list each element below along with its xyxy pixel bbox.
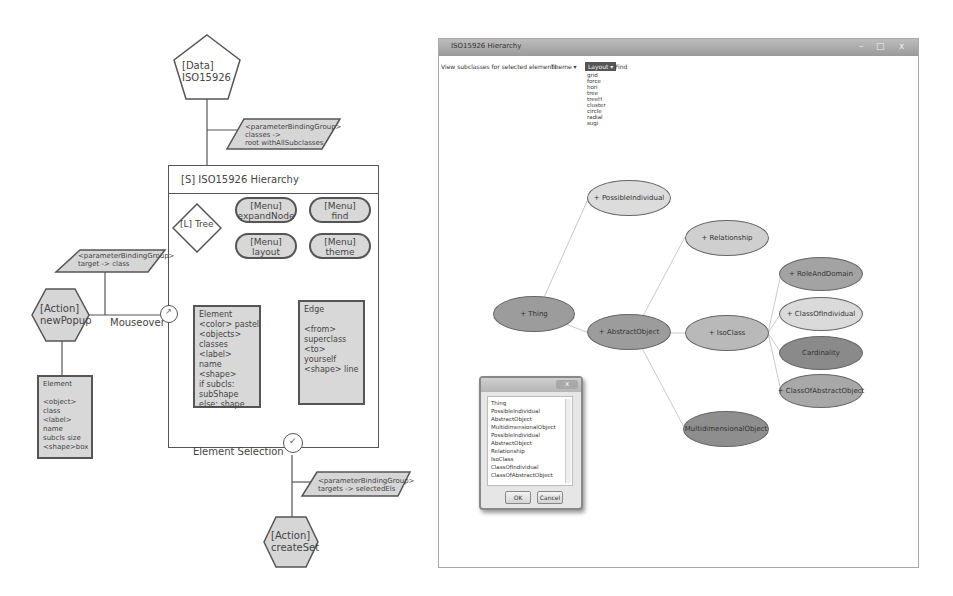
edge-card: Edge <from> superclass <to> yourself <sh… bbox=[298, 300, 365, 405]
param-top-label: <parameterBindingGroup> classes -> root … bbox=[245, 123, 341, 147]
popup-element-card: Element <object> class <label> name subc… bbox=[37, 375, 93, 459]
selection-event: ✓ bbox=[283, 433, 303, 453]
screen-title: [S] ISO15926 Hierarchy bbox=[169, 166, 378, 194]
layout-tree-label: [L] Tree bbox=[180, 218, 214, 230]
ok-button[interactable]: OK bbox=[505, 491, 531, 504]
menu-layout: [Menu] layout bbox=[235, 233, 297, 259]
list-item[interactable]: AbstractObject bbox=[491, 439, 569, 447]
menu-find: [Menu] find bbox=[309, 197, 371, 223]
list-item[interactable]: PossibleIndividual bbox=[491, 431, 569, 439]
dialog-close-button[interactable]: x bbox=[556, 380, 578, 389]
graph-node-classofindividual[interactable]: + ClassOfIndividual bbox=[779, 297, 863, 331]
graph-node-relationship[interactable]: + Relationship bbox=[685, 220, 769, 256]
menu-theme: [Menu] theme bbox=[309, 233, 371, 259]
dialog-title-bar[interactable]: x bbox=[481, 378, 581, 392]
graph-node-cardinality[interactable]: Cardinality bbox=[779, 336, 863, 370]
cancel-button[interactable]: Cancel bbox=[537, 491, 563, 504]
param-left-label: <parameterBindingGroup> target -> class bbox=[78, 252, 174, 268]
list-item[interactable]: ClassOfAbstractObject bbox=[491, 471, 569, 479]
class-listbox[interactable]: Thing PossibleIndividual AbstractObject … bbox=[487, 396, 573, 486]
element-card: Element <color> pastel <objects> classes… bbox=[193, 305, 261, 408]
graph-node-roleanddomain[interactable]: + RoleAndDomain bbox=[779, 257, 863, 291]
data-node-label: [Data] ISO15926 bbox=[182, 60, 231, 84]
cursor-icon: ↗ bbox=[165, 307, 172, 316]
check-icon: ✓ bbox=[289, 436, 297, 446]
list-item[interactable]: AbstractObject bbox=[491, 415, 569, 423]
select-dialog: x Thing PossibleIndividual AbstractObjec… bbox=[479, 376, 583, 510]
graph-node-isoclass[interactable]: + IsoClass bbox=[685, 315, 769, 351]
graph-node-thing[interactable]: + Thing bbox=[493, 296, 575, 332]
graph-node-classofabstractobject[interactable]: + ClassOfAbstractObject bbox=[779, 374, 863, 408]
action-popup-label: [Action] newPopup bbox=[40, 303, 92, 327]
list-item[interactable]: IsoClass bbox=[491, 455, 569, 463]
graph-node-multidimensionalobject[interactable]: MultidimensionalObject bbox=[683, 411, 769, 447]
menu-expandnode: [Menu] expandNode bbox=[235, 197, 297, 223]
list-item[interactable]: MultidimensionalObject bbox=[491, 423, 569, 431]
param-bottom-label: <parameterBindingGroup> targets -> selec… bbox=[318, 477, 414, 493]
graph-node-abstractobject[interactable]: + AbstractObject bbox=[587, 314, 671, 350]
action-create-label: [Action] createSet bbox=[271, 530, 319, 554]
graph-node-possibleindividual[interactable]: + PossibleIndividual bbox=[587, 180, 671, 216]
app-window: ISO15926 Hierarchy – □ x View subclasses… bbox=[438, 38, 919, 568]
selection-label: Element Selection bbox=[193, 446, 284, 458]
list-item[interactable]: ClassOfIndividual bbox=[491, 463, 569, 471]
mouseover-label: Mouseover bbox=[110, 317, 165, 329]
list-item[interactable]: Relationship bbox=[491, 447, 569, 455]
list-item[interactable]: PossibleIndividual bbox=[491, 407, 569, 415]
list-item[interactable]: Thing bbox=[491, 399, 569, 407]
mouseover-event: ↗ bbox=[160, 305, 178, 323]
list-scrollbar[interactable] bbox=[565, 399, 571, 483]
